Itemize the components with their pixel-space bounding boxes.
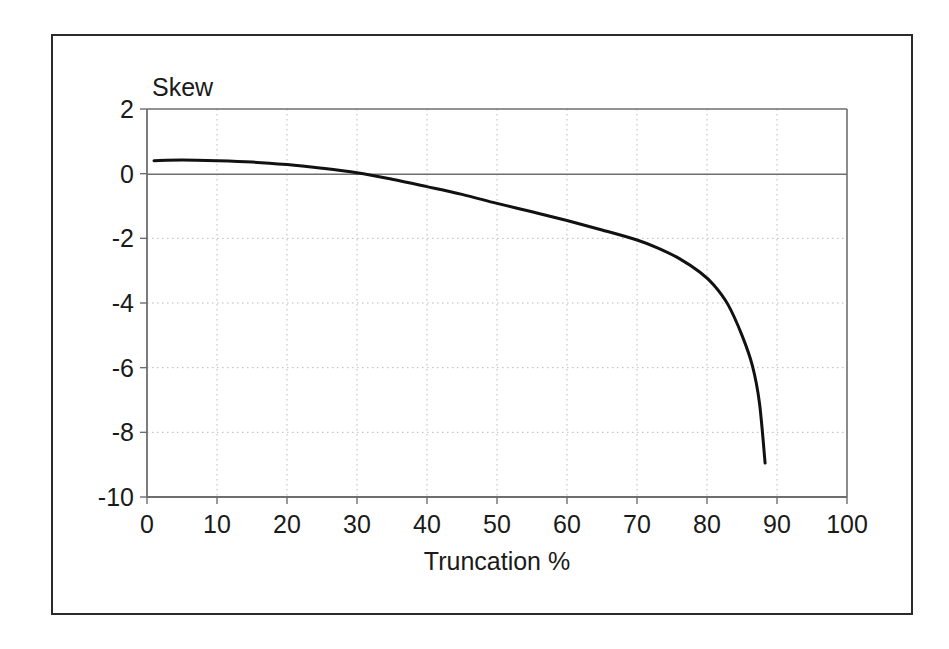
x-axis-tick-labels: 0102030405060708090100 — [140, 510, 868, 538]
x-tick-label: 80 — [693, 510, 721, 538]
x-tick-label: 70 — [623, 510, 651, 538]
y-tick-label: -6 — [112, 354, 134, 382]
x-tick-label: 50 — [483, 510, 511, 538]
x-tick-label: 10 — [203, 510, 231, 538]
y-axis-tick-marks — [140, 109, 147, 497]
x-tick-label: 100 — [826, 510, 868, 538]
y-axis-tick-labels: 20-2-4-6-8-10 — [98, 95, 134, 511]
x-axis-tick-marks — [147, 497, 847, 504]
x-axis-title: Truncation % — [424, 547, 570, 575]
x-tick-label: 60 — [553, 510, 581, 538]
x-tick-label: 40 — [413, 510, 441, 538]
y-tick-label: 0 — [120, 160, 134, 188]
y-tick-label: 2 — [120, 95, 134, 123]
x-tick-label: 30 — [343, 510, 371, 538]
x-tick-label: 90 — [763, 510, 791, 538]
x-tick-label: 0 — [140, 510, 154, 538]
figure-root: 20-2-4-6-8-10 0102030405060708090100 Ske… — [0, 0, 949, 649]
y-tick-label: -4 — [112, 289, 134, 317]
y-tick-label: -2 — [112, 224, 134, 252]
x-tick-label: 20 — [273, 510, 301, 538]
y-tick-label: -8 — [112, 418, 134, 446]
y-tick-label: -10 — [98, 483, 134, 511]
y-axis-title: Skew — [152, 73, 214, 101]
skew-truncation-line-chart: 20-2-4-6-8-10 0102030405060708090100 Ske… — [0, 0, 949, 649]
